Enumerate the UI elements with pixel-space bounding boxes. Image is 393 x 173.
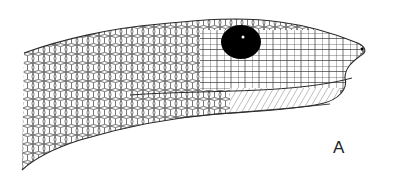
eye-highlight: [242, 36, 245, 39]
panel-label: A: [333, 138, 344, 158]
figure-canvas: A: [0, 0, 393, 173]
eye: [221, 25, 261, 59]
nostril: [360, 47, 363, 50]
